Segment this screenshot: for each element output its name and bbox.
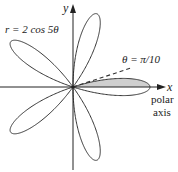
- y-axis-arrow: [70, 4, 76, 13]
- x-axis-arrow: [157, 84, 166, 90]
- ray-angle-label: θ = π/10: [122, 53, 160, 65]
- equation-label: r = 2 cos 5θ: [5, 23, 59, 35]
- x-axis-label: x: [166, 80, 173, 94]
- polar-axis-label-line1: polar: [151, 93, 174, 105]
- polar-rose-diagram: y x polar axis r = 2 cos 5θ θ = π/10: [0, 0, 178, 172]
- origin-point: [71, 85, 74, 88]
- y-axis-label: y: [62, 1, 69, 15]
- polar-axis-label-line2: axis: [153, 106, 171, 118]
